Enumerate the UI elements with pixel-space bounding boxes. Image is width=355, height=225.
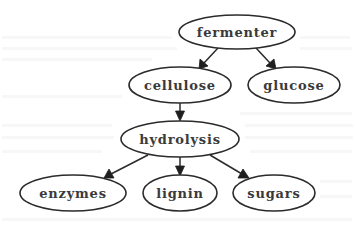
node-label-enzymes: enzymes — [39, 186, 107, 201]
node-label-lignin: lignin — [156, 186, 204, 201]
edge-cellulose-to-hydrolysis — [176, 103, 185, 121]
node-fermenter[interactable]: fermenter — [179, 15, 295, 49]
edge-fermenter-to-cellulose — [199, 48, 218, 69]
node-label-glucose: glucose — [263, 78, 324, 93]
node-label-cellulose: cellulose — [144, 78, 216, 93]
node-hydrolysis[interactable]: hydrolysis — [121, 121, 239, 157]
node-sugars[interactable]: sugars — [233, 175, 315, 211]
edge-fermenter-to-glucose — [256, 48, 276, 69]
node-enzymes[interactable]: enzymes — [20, 175, 126, 211]
node-label-hydrolysis: hydrolysis — [139, 132, 221, 147]
node-label-sugars: sugars — [247, 186, 300, 201]
edge-hydrolysis-to-enzymes — [104, 155, 148, 178]
edge-hydrolysis-to-lignin — [176, 157, 185, 176]
node-glucose[interactable]: glucose — [248, 67, 340, 103]
node-cellulose[interactable]: cellulose — [129, 67, 231, 103]
arrowhead-icon — [238, 169, 249, 178]
node-lignin[interactable]: lignin — [143, 175, 217, 211]
edge-hydrolysis-to-sugars — [210, 155, 249, 178]
diagram-canvas: fermenter cellulose glucose hydrolysis e… — [0, 0, 355, 225]
arrowhead-icon — [176, 111, 185, 121]
node-label-fermenter: fermenter — [197, 25, 278, 40]
